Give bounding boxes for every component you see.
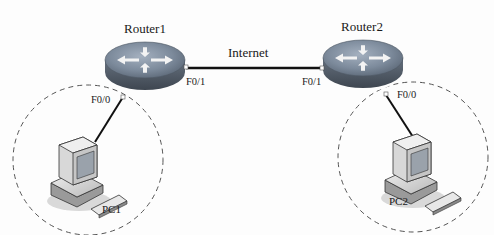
router2-icon[interactable] (323, 40, 403, 88)
router1-f01-label: F0/1 (186, 76, 205, 87)
router1-label: Router1 (124, 21, 166, 36)
router2-f01-label: F0/1 (302, 76, 321, 87)
router1-f00-label: F0/0 (91, 94, 110, 105)
internet-label: Internet (228, 45, 269, 60)
pc2-label: PC2 (389, 195, 408, 207)
router2-f00-label: F0/0 (397, 89, 416, 100)
router1-icon[interactable] (105, 42, 185, 90)
network-diagram: Router1 Router2 Internet F0/1 F0/0 F0/1 … (0, 0, 494, 235)
router1-f00-port (121, 95, 125, 99)
pc1-label: PC1 (102, 203, 121, 215)
router2-f00-port (384, 92, 388, 96)
router2-pc2-link (386, 95, 415, 140)
router2-f01-port (320, 66, 324, 70)
router1-f01-port (184, 65, 188, 69)
router2-label: Router2 (341, 19, 383, 34)
